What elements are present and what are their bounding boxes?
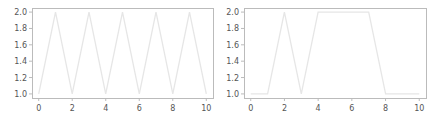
y-tick-label: 1.4 <box>14 57 27 66</box>
y-tick-label: 1.4 <box>226 57 239 66</box>
line-chart-alternating: 02468101.01.21.41.61.82.0 <box>0 0 220 118</box>
x-tick-label: 10 <box>414 104 424 113</box>
chart-right: 02468101.01.21.41.61.82.0 <box>220 0 440 118</box>
x-tick-label: 0 <box>36 104 41 113</box>
x-tick-label: 8 <box>170 104 175 113</box>
y-tick-label: 1.8 <box>14 24 27 33</box>
y-tick-label: 2.0 <box>226 8 239 17</box>
y-tick-label: 1.6 <box>14 41 27 50</box>
chart-left: 02468101.01.21.41.61.82.0 <box>0 0 220 118</box>
line-chart-plateau: 02468101.01.21.41.61.82.0 <box>220 0 440 118</box>
y-tick-label: 2.0 <box>14 8 27 17</box>
x-tick-label: 6 <box>349 104 354 113</box>
plot-frame <box>33 9 214 99</box>
x-tick-label: 8 <box>383 104 388 113</box>
y-tick-label: 1.8 <box>226 24 239 33</box>
x-tick-label: 10 <box>201 104 211 113</box>
y-tick-label: 1.6 <box>226 41 239 50</box>
y-tick-label: 1.0 <box>226 90 239 99</box>
x-tick-label: 6 <box>137 104 142 113</box>
x-tick-label: 0 <box>248 104 253 113</box>
y-tick-label: 1.2 <box>14 74 27 83</box>
x-tick-label: 2 <box>70 104 75 113</box>
x-tick-label: 4 <box>103 104 108 113</box>
data-line <box>251 12 420 94</box>
x-tick-label: 2 <box>282 104 287 113</box>
y-tick-label: 1.0 <box>14 90 27 99</box>
plot-frame <box>245 9 427 99</box>
y-tick-label: 1.2 <box>226 74 239 83</box>
x-tick-label: 4 <box>316 104 321 113</box>
data-line <box>39 12 207 94</box>
